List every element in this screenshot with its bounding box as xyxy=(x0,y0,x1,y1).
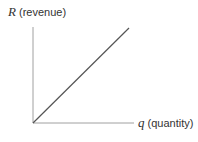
x-description: (quantity) xyxy=(148,117,194,129)
x-axis-label: q (quantity) xyxy=(138,115,193,131)
y-description: (revenue) xyxy=(19,6,66,18)
x-variable: q xyxy=(138,115,145,130)
y-axis-label: R (revenue) xyxy=(8,4,66,20)
y-variable: R xyxy=(8,4,16,19)
revenue-line xyxy=(33,28,129,123)
